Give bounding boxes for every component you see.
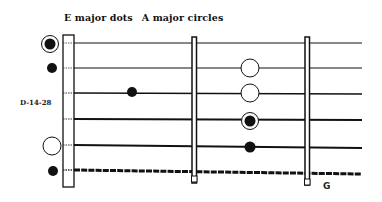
fretboard xyxy=(0,0,382,202)
open-string-6-dot xyxy=(48,166,58,176)
fret-1-markers xyxy=(127,87,137,97)
fret-2-markers xyxy=(241,59,259,153)
string-6 xyxy=(74,170,362,174)
fret-1 xyxy=(192,37,198,183)
string-3 xyxy=(74,93,362,94)
fret-2-string-5-dot xyxy=(245,142,256,153)
fret-2 xyxy=(305,37,311,185)
fret-2-string-2-circle xyxy=(241,59,259,77)
strings xyxy=(74,43,362,174)
open-string-5-circle xyxy=(43,137,61,155)
nut xyxy=(63,35,74,187)
open-string-markers xyxy=(42,36,62,177)
string-5 xyxy=(74,145,362,148)
open-string-2-dot xyxy=(47,63,57,73)
chord-diagram: E major dotsA major circles D-14-28 G xyxy=(0,0,382,202)
fret-2-string-3-circle xyxy=(241,84,259,102)
fret-1-string-3-dot xyxy=(127,87,137,97)
open-string-1-dot-in-circle xyxy=(42,36,59,53)
string-4 xyxy=(74,119,362,120)
fret-2-string-4-dot-in-circle xyxy=(242,113,259,130)
